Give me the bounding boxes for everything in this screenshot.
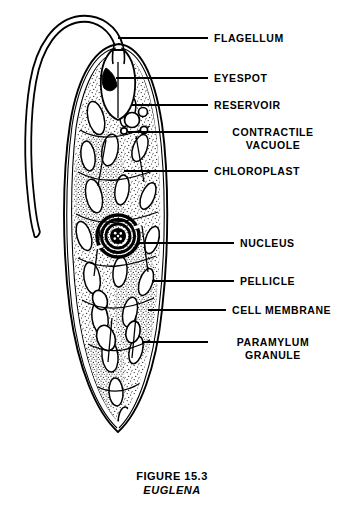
label-reservoir-line-1: RESERVOIR: [214, 99, 281, 112]
label-nucleus: NUCLEUS: [240, 237, 295, 250]
label-chloroplast-line-1: CHLOROPLAST: [214, 165, 300, 178]
euglena-figure: FLAGELLUMEYESPOTRESERVOIRCONTRACTILEVACU…: [0, 0, 344, 516]
label-cell-membrane-line-1: CELL MEMBRANE: [232, 304, 331, 317]
euglena-diagram: [0, 0, 344, 516]
label-pellicle-line-1: PELLICLE: [240, 275, 295, 288]
label-chloroplast: CHLOROPLAST: [214, 165, 300, 178]
figure-number: FIGURE 15.3: [0, 470, 344, 482]
label-contractile-vacuole-line-2: VACUOLE: [214, 139, 332, 152]
label-contractile-vacuole: CONTRACTILEVACUOLE: [214, 126, 332, 151]
label-contractile-vacuole-line-1: CONTRACTILE: [214, 126, 332, 139]
label-eyespot: EYESPOT: [214, 72, 267, 85]
label-paramylum-granule-line-2: GRANULE: [214, 349, 332, 362]
label-pellicle: PELLICLE: [240, 275, 295, 288]
figure-caption: FIGURE 15.3 EUGLENA: [0, 470, 344, 496]
label-flagellum-line-1: FLAGELLUM: [214, 32, 284, 45]
label-reservoir: RESERVOIR: [214, 99, 281, 112]
label-nucleus-line-1: NUCLEUS: [240, 237, 295, 250]
label-eyespot-line-1: EYESPOT: [214, 72, 267, 85]
label-paramylum-granule: PARAMYLUMGRANULE: [214, 336, 332, 361]
label-paramylum-granule-line-1: PARAMYLUM: [214, 336, 332, 349]
label-flagellum: FLAGELLUM: [214, 32, 284, 45]
cell-body: [25, 16, 175, 440]
figure-organism-name: EUGLENA: [0, 484, 344, 496]
label-cell-membrane: CELL MEMBRANE: [232, 304, 331, 317]
